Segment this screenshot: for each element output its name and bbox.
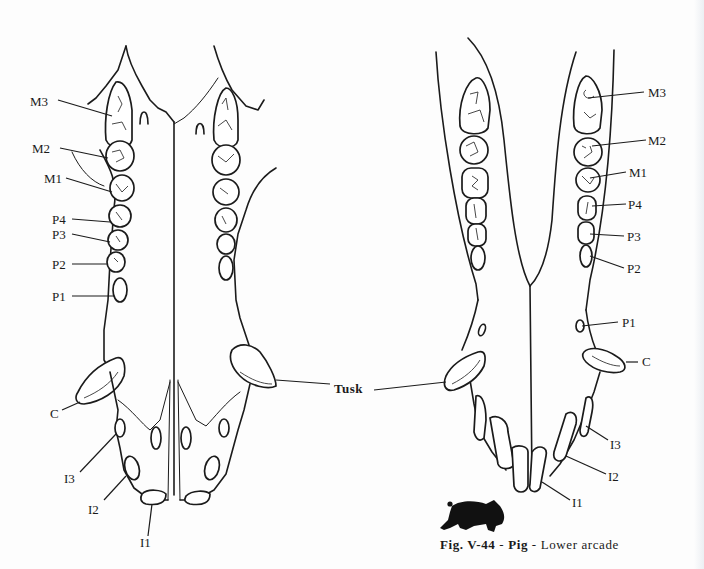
dental-arcade-illustration	[0, 0, 704, 569]
pig-silhouette-icon	[440, 500, 504, 532]
upper-label-m3: M3	[30, 95, 48, 108]
upper-label-p1: P1	[52, 290, 66, 303]
upper-label-p3: P3	[52, 228, 66, 241]
upper-label-m2: M2	[32, 142, 50, 155]
caption-sep-1: -	[499, 537, 504, 552]
figure-view: Lower arcade	[541, 537, 619, 552]
lower-label-m3: M3	[648, 86, 666, 99]
figure-animal: Pig	[508, 537, 528, 552]
upper-label-p2: P2	[52, 258, 66, 271]
lower-label-c: C	[642, 355, 651, 368]
lower-label-p4: P4	[628, 198, 642, 211]
upper-arcade-drawing	[58, 46, 276, 536]
lower-arcade-drawing	[276, 38, 646, 500]
lower-label-m2: M2	[648, 134, 666, 147]
caption-sep-2: -	[532, 537, 537, 552]
lower-label-p1: P1	[622, 316, 636, 329]
upper-label-c: C	[50, 407, 59, 420]
upper-label-p4: P4	[52, 213, 66, 226]
lower-label-i2: I2	[608, 470, 619, 483]
lower-label-p3: P3	[627, 230, 641, 243]
figure-caption: Fig. V-44 - Pig - Lower arcade	[440, 537, 619, 553]
upper-label-i3: I3	[64, 472, 75, 485]
lower-label-i3: I3	[610, 438, 621, 451]
diagram-page: M3 M2 M1 P4 P3 P2 P1 C I3 I2 I1 Tusk M3 …	[0, 0, 704, 569]
upper-label-m1: M1	[44, 172, 62, 185]
upper-label-i1: I1	[140, 536, 151, 549]
upper-label-i2: I2	[88, 503, 99, 516]
figure-number: Fig. V-44	[440, 537, 495, 552]
lower-label-i1: I1	[572, 496, 583, 509]
label-tusk: Tusk	[334, 382, 363, 395]
lower-label-m1: M1	[629, 166, 647, 179]
lower-label-p2: P2	[627, 262, 641, 275]
